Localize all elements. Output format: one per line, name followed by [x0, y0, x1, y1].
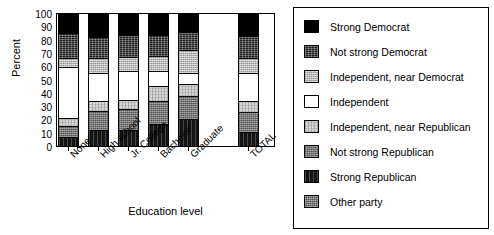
legend-label: Not strong Republican [330, 146, 434, 158]
bar-segment [179, 84, 198, 96]
bar-segment [59, 33, 78, 58]
bar-total[interactable] [238, 14, 259, 147]
legend-swatch-icon [304, 95, 319, 108]
bar-segment [179, 73, 198, 85]
bar-segment [239, 101, 258, 111]
legend-item[interactable]: Other party [304, 189, 488, 214]
y-axis-ticks: 0102030405060708090100 [25, 9, 52, 151]
legend-item[interactable]: Independent, near Republican [304, 114, 488, 139]
x-axis-tick-mark [248, 147, 249, 151]
legend-item[interactable]: Independent, near Democrat [304, 64, 488, 89]
chart-legend: Strong DemocratNot strong DemocratIndepe… [293, 7, 489, 229]
y-axis-tick-label: 30 [41, 103, 52, 112]
bar-segment [179, 15, 198, 32]
bar-segment [149, 15, 168, 35]
legend-swatch-icon [304, 145, 319, 158]
legend-label: Independent, near Democrat [330, 71, 464, 83]
legend-label: Strong Republican [330, 171, 416, 183]
y-axis-tick-label: 10 [41, 129, 52, 138]
bar-segment [59, 58, 78, 67]
bar-segment [149, 35, 168, 56]
legend-item[interactable]: Not strong Republican [304, 139, 488, 164]
chart-plot-area: Percent 0102030405060708090100 NoneHigh … [0, 0, 292, 235]
bar-segment [119, 57, 138, 71]
bar-segment [239, 73, 258, 102]
bar-high-school[interactable] [88, 14, 109, 147]
legend-swatch-icon [304, 45, 319, 58]
legend-label: Not strong Democrat [330, 46, 427, 58]
bar-segment [239, 112, 258, 132]
legend-swatch-icon [304, 195, 319, 208]
x-axis-tick-mark [68, 147, 69, 151]
y-axis-tick-label: 40 [41, 89, 52, 98]
bar-segment [119, 100, 138, 109]
bar-segment [59, 15, 78, 33]
bar-segment [89, 58, 108, 72]
bar-segment [59, 126, 78, 136]
bar-segment [179, 32, 198, 50]
y-axis-tick-label: 20 [41, 116, 52, 125]
bar-segment [149, 56, 168, 72]
y-axis-tick-label: 0 [46, 143, 52, 152]
legend-label: Independent, near Republican [330, 121, 471, 133]
legend-label: Other party [330, 196, 383, 208]
bar-segment [179, 96, 198, 118]
bar-segment [239, 58, 258, 72]
legend-label: Strong Democrat [330, 21, 409, 33]
x-axis-title: Education level [56, 205, 275, 217]
legend-swatch-icon [304, 20, 319, 33]
bar-segment [239, 36, 258, 58]
y-axis-tick-label: 80 [41, 36, 52, 45]
bar-segment [239, 15, 258, 36]
x-axis-tick-mark [158, 147, 159, 151]
legend-swatch-icon [304, 120, 319, 133]
bar-none[interactable] [58, 14, 79, 147]
bar-segment [89, 111, 108, 131]
bar-segment [119, 71, 138, 100]
bar-segment [179, 50, 198, 72]
bar-segment [59, 67, 78, 118]
bar-segment [89, 37, 108, 58]
bar-segment [119, 15, 138, 35]
x-axis-labels: NoneHigh schoolJr. CollegeBachelorGradua… [56, 150, 286, 202]
y-axis-tick-label: 50 [41, 76, 52, 85]
bar-segment [59, 118, 78, 126]
legend-item[interactable]: Not strong Democrat [304, 39, 488, 64]
legend-swatch-icon [304, 70, 319, 83]
bar-segment [89, 15, 108, 37]
legend-item[interactable]: Independent [304, 89, 488, 114]
bar-segment [89, 101, 108, 110]
x-axis-tick-mark [98, 147, 99, 151]
y-axis-tick-label: 100 [35, 10, 52, 19]
y-axis-tick-label: 90 [41, 23, 52, 32]
y-axis-tick-label: 60 [41, 63, 52, 72]
legend-item[interactable]: Strong Democrat [304, 14, 488, 39]
y-axis-tick-label: 70 [41, 49, 52, 58]
legend-swatch-icon [304, 170, 319, 183]
x-axis-tick-mark [128, 147, 129, 151]
bar-segment [149, 71, 168, 85]
bar-segment [89, 73, 108, 102]
legend-item[interactable]: Strong Republican [304, 164, 488, 189]
legend-label: Independent [330, 96, 388, 108]
bar-segment [119, 35, 138, 57]
x-axis-tick-mark [188, 147, 189, 151]
y-axis-title: Percent [10, 0, 22, 118]
bar-segment [149, 86, 168, 102]
